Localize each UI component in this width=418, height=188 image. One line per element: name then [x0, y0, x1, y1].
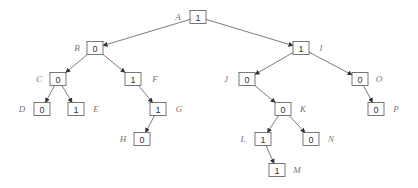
- node-label: P: [392, 104, 399, 114]
- node-label: H: [119, 134, 127, 144]
- edge-g-h: [145, 116, 154, 133]
- tree-node-f: 1F: [125, 73, 158, 86]
- edge-c-e: [62, 86, 72, 103]
- tree-node-n: 0N: [303, 133, 335, 146]
- node-label: M: [292, 165, 301, 175]
- edge-a-b: [103, 19, 190, 45]
- node-label: F: [151, 74, 158, 84]
- node-value: 0: [139, 135, 144, 145]
- node-label: J: [224, 74, 229, 84]
- tree-node-p: 0P: [368, 103, 399, 116]
- node-label: K: [299, 104, 307, 114]
- tree-node-e: 1E: [68, 103, 99, 116]
- tree-node-l: 1L: [239, 133, 271, 146]
- edge-a-i: [206, 19, 293, 45]
- tree-node-g: 1G: [150, 103, 183, 116]
- edge-b-c: [66, 55, 87, 73]
- tree-node-k: 0K: [275, 103, 307, 116]
- node-value: 1: [130, 75, 135, 85]
- node-value: 1: [155, 105, 160, 115]
- node-value: 0: [92, 44, 97, 54]
- node-value: 1: [73, 105, 78, 115]
- nodes-layer: 1A0B1I0C1F0J0O0D1E1G0K0P0H1L0N1M: [18, 11, 400, 177]
- node-label: D: [18, 104, 26, 114]
- tree-node-i: 1I: [293, 42, 324, 55]
- node-label: L: [239, 134, 245, 144]
- edge-l-m: [266, 146, 274, 164]
- node-value: 0: [55, 75, 60, 85]
- node-value: 0: [357, 75, 362, 85]
- node-label: N: [327, 134, 335, 144]
- node-value: 1: [274, 166, 279, 176]
- edge-o-p: [363, 86, 372, 103]
- edge-j-k: [255, 86, 275, 103]
- node-label: I: [319, 43, 324, 53]
- tree-node-d: 0D: [18, 103, 50, 116]
- tree-node-c: 0C: [36, 73, 66, 86]
- tree-node-j: 0J: [224, 73, 255, 86]
- node-label: E: [92, 104, 99, 114]
- node-label: C: [36, 74, 43, 84]
- edge-f-g: [138, 86, 152, 103]
- tree-node-a: 1A: [174, 11, 206, 24]
- node-label: O: [376, 74, 383, 84]
- tree-node-o: 0O: [352, 73, 383, 86]
- tree-node-h: 0H: [119, 133, 150, 146]
- node-value: 0: [373, 105, 378, 115]
- node-value: 1: [298, 44, 303, 54]
- edge-i-o: [309, 52, 352, 75]
- edge-b-f: [103, 55, 125, 73]
- node-label: B: [74, 43, 80, 53]
- node-value: 1: [195, 13, 200, 23]
- node-label: G: [176, 104, 183, 114]
- edge-k-n: [289, 116, 305, 133]
- edges-layer: [45, 19, 372, 163]
- tree-node-m: 1M: [269, 164, 301, 177]
- tree-node-b: 0B: [74, 42, 103, 55]
- node-value: 0: [39, 105, 44, 115]
- node-value: 0: [244, 75, 249, 85]
- tree-diagram: 1A0B1I0C1F0J0O0D1E1G0K0P0H1L0N1M: [0, 0, 418, 188]
- edge-i-j: [255, 53, 293, 75]
- edge-k-l: [267, 116, 278, 133]
- node-label: A: [174, 12, 181, 22]
- node-value: 0: [308, 135, 313, 145]
- edge-c-d: [45, 86, 54, 103]
- node-value: 0: [280, 105, 285, 115]
- node-value: 1: [260, 135, 265, 145]
